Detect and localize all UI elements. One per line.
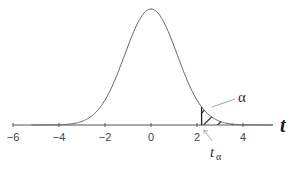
alpha-label: α: [238, 89, 246, 105]
tail-hatching: [162, 95, 292, 125]
t-alpha-arrow: [204, 130, 212, 141]
t-distribution-chart: −6−4−2024 α t α t: [0, 0, 292, 169]
x-tick-label: −6: [7, 131, 20, 143]
x-tick-label: −2: [99, 131, 112, 143]
x-axis-label: t: [280, 114, 287, 136]
x-tick-label: 2: [194, 131, 200, 143]
x-tick-label: −4: [53, 131, 66, 143]
alpha-leader-line: [212, 99, 235, 107]
x-tick-label: 0: [148, 131, 154, 143]
t-alpha-subscript: α: [216, 151, 222, 162]
density-curve: [31, 9, 273, 125]
x-tick-label: 4: [240, 131, 246, 143]
t-alpha-label: t: [210, 144, 215, 160]
x-axis-ticks: −6−4−2024: [7, 123, 246, 143]
